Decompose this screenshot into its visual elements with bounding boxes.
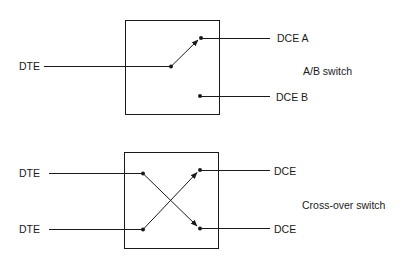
crossover-switch-caption: Cross-over switch [302,199,386,211]
ab-switch-caption: A/B switch [303,65,352,77]
crossover-dte-bottom-label: DTE [19,223,40,235]
switch-diagram: DTE DCE A DCE B A/B switch DTE DTE DCE D… [0,0,405,262]
ab-switch-arm-arrow [171,40,198,67]
crossover-switch: DTE DTE DCE DCE Cross-over switch [19,153,386,249]
ab-dce-b-label: DCE B [276,91,308,103]
crossover-switch-box [125,153,219,249]
crossover-dce-top-label: DCE [274,165,296,177]
crossover-dte-top-label: DTE [19,167,40,179]
ab-dte-label: DTE [19,60,40,72]
ab-switch: DTE DCE A DCE B A/B switch [19,21,352,115]
ab-dce-a-label: DCE A [277,32,309,44]
crossover-dce-bottom-label: DCE [274,223,296,235]
